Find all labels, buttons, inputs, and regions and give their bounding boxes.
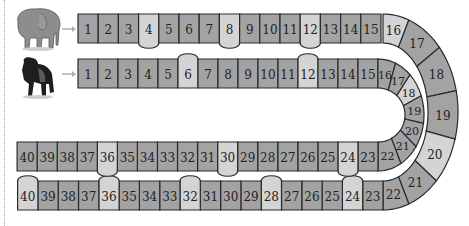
cell-number: 27 (284, 190, 299, 204)
cell-number: 10 (262, 23, 277, 37)
cell-number: 15 (360, 68, 375, 82)
cell-number: 19 (407, 105, 421, 118)
cell-number: 40 (19, 151, 34, 165)
cell-number: 21 (396, 140, 410, 153)
cell-number: 29 (243, 190, 258, 204)
cell-number: 18 (429, 68, 444, 82)
arrow-icon (62, 71, 76, 77)
arrow-icon (62, 26, 76, 32)
cell-number: 16 (386, 24, 401, 38)
cell-number: 31 (200, 151, 215, 165)
cell-number: 29 (240, 151, 255, 165)
elephant-icon (18, 9, 60, 51)
cell-number: 6 (184, 68, 192, 82)
cell-number: 28 (260, 151, 275, 165)
cell-number: 5 (165, 23, 173, 37)
cell-number: 17 (409, 37, 424, 51)
cell-number: 23 (365, 190, 380, 204)
cell-number: 4 (144, 68, 152, 82)
cell-number: 38 (61, 190, 76, 204)
cell-number: 20 (405, 125, 419, 138)
cell-number: 21 (408, 176, 423, 190)
cell-number: 32 (183, 190, 198, 204)
cell-number: 3 (124, 68, 132, 82)
cell-number: 37 (81, 190, 96, 204)
cell-number: 5 (164, 68, 172, 82)
cell-number: 10 (260, 68, 275, 82)
cell-number: 18 (402, 87, 416, 100)
cell-number: 34 (140, 151, 156, 165)
cell-number: 12 (303, 23, 318, 37)
cell-number: 22 (380, 150, 394, 163)
cell-number: 37 (80, 151, 95, 165)
cell-number: 36 (101, 190, 116, 204)
cell-number: 34 (142, 190, 158, 204)
cell-number: 1 (84, 23, 92, 37)
cell-number: 2 (104, 68, 112, 82)
cell-number: 35 (122, 190, 137, 204)
cell-number: 24 (345, 190, 361, 204)
cell-number: 16 (378, 69, 392, 82)
cell-number: 30 (223, 190, 238, 204)
cell-number: 20 (427, 148, 442, 162)
cell-number: 40 (20, 190, 35, 204)
cell-number: 25 (325, 190, 340, 204)
cell-number: 6 (185, 23, 193, 37)
cell-number: 26 (304, 190, 319, 204)
cell-number: 7 (205, 23, 213, 37)
gorilla-icon (22, 57, 54, 99)
cell-number: 33 (160, 151, 175, 165)
cell-number: 19 (435, 109, 450, 123)
cell-number: 4 (145, 23, 153, 37)
cell-number: 8 (224, 68, 232, 82)
cell-number: 36 (100, 151, 115, 165)
cell-number: 9 (246, 23, 254, 37)
cell-number: 39 (40, 151, 55, 165)
cell-number: 24 (340, 151, 356, 165)
cell-number: 13 (320, 68, 335, 82)
cell-number: 15 (363, 23, 378, 37)
cell-number: 33 (162, 190, 177, 204)
cell-number: 2 (104, 23, 112, 37)
cell-number: 27 (280, 151, 295, 165)
cell-number: 25 (320, 151, 335, 165)
cell-number: 7 (204, 68, 212, 82)
cell-number: 11 (280, 68, 295, 82)
cell-number: 14 (340, 68, 356, 82)
cell-number: 32 (180, 151, 195, 165)
cell-number: 26 (300, 151, 315, 165)
cell-number: 31 (203, 190, 218, 204)
cell-number: 35 (120, 151, 135, 165)
cell-number: 12 (300, 68, 315, 82)
cell-number: 9 (244, 68, 252, 82)
cell-number: 22 (386, 188, 401, 202)
cell-number: 30 (220, 151, 235, 165)
cell-number: 28 (264, 190, 279, 204)
cell-number: 11 (282, 23, 297, 37)
cell-number: 3 (125, 23, 133, 37)
cell-number: 8 (226, 23, 234, 37)
cell-number: 1 (84, 68, 92, 82)
race-board: 1234567891011121314151617181920212223242… (0, 0, 469, 226)
cell-number: 13 (323, 23, 338, 37)
cell-number: 14 (343, 23, 359, 37)
cell-number: 38 (60, 151, 75, 165)
cell-number: 23 (360, 151, 375, 165)
cell-number: 39 (40, 190, 55, 204)
